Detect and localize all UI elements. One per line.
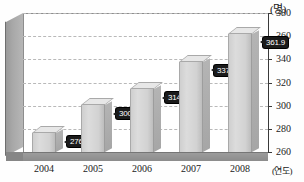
x-axis-tick-label: 2007 [171,163,211,174]
x-axis-tick-label: 2008 [220,163,260,174]
bar-front-face [130,89,154,152]
y-axis-tick-label: 320 [276,77,291,88]
bar-side-face [105,102,112,152]
bar-front-face [228,34,252,152]
bar [130,82,154,152]
x-axis-unit-label: (연도) [272,164,292,177]
chart-left-wall-edge [5,21,6,156]
y-axis-tick-label: 260 [276,146,291,157]
chart-floor-corner [6,152,23,161]
chart-floor-edge [23,152,268,153]
bar-chart: (명) 260280300320340360380 276.2300.2314.… [0,0,304,182]
y-axis-tick-label: 340 [276,53,291,64]
bar [32,126,56,152]
x-axis-tick-label: 2006 [122,163,162,174]
bar-front-face [81,105,105,152]
x-axis-tick-label: 2004 [24,163,64,174]
y-axis-tick [268,83,272,84]
chart-left-wall [6,13,23,156]
gridline [23,13,268,14]
chart-floor [6,152,268,161]
bar [179,55,203,152]
bar-side-face [252,30,259,152]
y-axis-tick [268,13,272,14]
x-axis-tick-label: 2005 [73,163,113,174]
bar [228,27,252,152]
y-axis-tick [268,129,272,130]
y-axis-tick-label: 280 [276,123,291,134]
y-axis-tick [268,152,272,153]
bar-side-face [154,85,161,152]
y-axis-tick-label: 380 [276,7,291,18]
bar-value-label: 361.9 [263,37,288,48]
bar-front-face [179,62,203,152]
y-axis-tick [268,106,272,107]
bar-front-face [32,133,56,152]
y-axis-tick [268,59,272,60]
bar [81,98,105,152]
y-axis-tick-label: 300 [276,100,291,111]
bar-side-face [203,58,210,152]
